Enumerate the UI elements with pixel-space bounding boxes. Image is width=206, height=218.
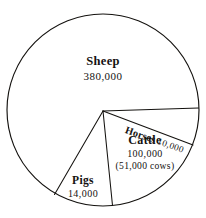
- slice-label-pigs-name: Pigs: [57, 174, 109, 188]
- slice-label-cattle-note: (51,000 cows): [104, 160, 186, 171]
- pie-chart: Sheep 380,000 Cattle 100,000 (51,000 cow…: [0, 0, 206, 218]
- slice-label-pigs: Pigs 14,000: [57, 174, 109, 199]
- slice-label-sheep-value: 380,000: [46, 70, 160, 83]
- slice-label-sheep-name: Sheep: [46, 54, 160, 69]
- slice-label-sheep: Sheep 380,000: [46, 54, 160, 83]
- slice-label-pigs-value: 14,000: [57, 188, 109, 200]
- slice-divider-horses-sheep: [103, 108, 199, 111]
